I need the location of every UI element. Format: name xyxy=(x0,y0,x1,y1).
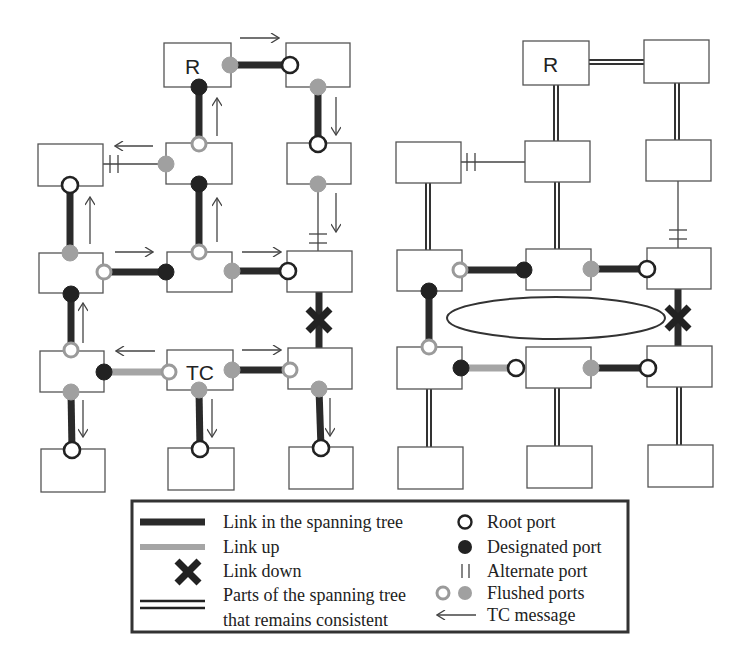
flushed-port-icon xyxy=(583,360,599,376)
designated-port-icon xyxy=(96,364,112,380)
root-port-legend-icon xyxy=(459,516,472,529)
legend-label: Link down xyxy=(223,561,302,581)
root-port-icon xyxy=(310,136,326,152)
switch xyxy=(398,447,463,489)
legend-label: Root port xyxy=(487,512,556,532)
root-port-icon xyxy=(62,177,78,193)
designated-port-icon xyxy=(63,286,79,302)
flushed-port-icon xyxy=(310,176,326,192)
right-panel: R xyxy=(396,40,713,489)
flushed-root-port-icon xyxy=(97,265,111,279)
inconsistent-region-ellipse xyxy=(447,297,665,339)
flushed-root-port-icon xyxy=(162,365,176,379)
flushed-port-icon xyxy=(62,245,78,261)
flushed-port-icon xyxy=(310,79,326,95)
root-port-icon xyxy=(508,360,524,376)
legend-label: TC message xyxy=(487,605,575,625)
switch xyxy=(526,347,591,388)
root-label: R xyxy=(185,55,200,78)
flushed-port-icon xyxy=(583,261,599,277)
flushed-port-icon xyxy=(311,381,327,397)
designated-port-icon xyxy=(191,79,207,95)
flushed-port-icon xyxy=(224,263,240,279)
switch xyxy=(396,142,461,183)
legend-label: Parts of the spanning tree xyxy=(223,585,406,605)
root-port-icon xyxy=(639,261,655,277)
legend-label: Alternate port xyxy=(487,561,587,581)
legend-label: Link up xyxy=(223,537,280,557)
flushed-root-port-icon xyxy=(453,263,467,277)
switch xyxy=(526,249,591,290)
flushed-root-port-icon xyxy=(64,343,78,357)
designated-port-icon xyxy=(453,360,469,376)
flushed-port-icon xyxy=(191,382,207,398)
flushed-solid-legend-icon xyxy=(458,586,472,600)
flushed-port-icon xyxy=(222,57,238,73)
legend-label: that remains consistent xyxy=(223,610,388,630)
designated-port-icon xyxy=(191,176,207,192)
root-port-icon xyxy=(313,440,329,456)
flushed-root-port-icon xyxy=(283,363,297,377)
flushed-root-port-icon xyxy=(192,137,206,151)
left-panel: R TC xyxy=(38,38,353,492)
tc-label: TC xyxy=(186,361,214,384)
switch xyxy=(644,40,709,83)
root-port-icon xyxy=(640,360,656,376)
legend: Link in the spanning tree Link up Link d… xyxy=(132,501,628,632)
switch xyxy=(646,140,711,181)
designated-port-icon xyxy=(516,262,532,278)
flushed-hollow-legend-icon xyxy=(437,587,449,599)
flushed-port-icon xyxy=(158,156,174,172)
root-port-icon xyxy=(192,441,208,457)
flushed-root-port-icon xyxy=(192,245,206,259)
root-port-icon xyxy=(282,57,298,73)
switch xyxy=(525,141,590,182)
switch xyxy=(648,445,713,487)
root-port-icon xyxy=(64,442,80,458)
designated-port-legend-icon xyxy=(458,540,472,554)
designated-port-icon xyxy=(421,283,437,299)
spanning-tree-diagram: R TC xyxy=(0,0,749,667)
flushed-root-port-icon xyxy=(422,340,436,354)
flushed-port-icon xyxy=(224,362,240,378)
designated-port-icon xyxy=(158,264,174,280)
root-label: R xyxy=(543,53,558,76)
root-port-icon xyxy=(280,263,296,279)
legend-label: Link in the spanning tree xyxy=(223,512,403,532)
switch xyxy=(647,248,711,289)
flushed-port-icon xyxy=(63,384,79,400)
legend-label: Flushed ports xyxy=(487,583,585,603)
legend-label: Designated port xyxy=(487,537,601,557)
switch xyxy=(527,446,592,488)
